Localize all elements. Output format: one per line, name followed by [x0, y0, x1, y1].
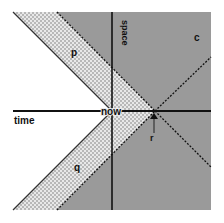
- c-label: c: [194, 32, 200, 43]
- now-label: now: [101, 106, 121, 117]
- time-axis-label: time: [14, 115, 35, 126]
- spacetime-diagram: time space now r p q c: [0, 0, 224, 223]
- q-label: q: [74, 162, 80, 173]
- space-axis-label: space: [120, 20, 130, 46]
- r-label: r: [150, 133, 154, 143]
- p-label: p: [71, 47, 77, 58]
